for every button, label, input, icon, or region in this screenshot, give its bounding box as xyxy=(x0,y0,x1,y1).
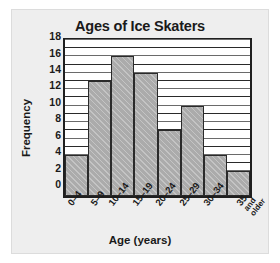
bar-slot xyxy=(88,40,111,196)
y-tick-label: 6 xyxy=(55,129,61,141)
plot-area: 024681012141618 xyxy=(63,38,252,198)
x-axis-label: Age (years) xyxy=(12,234,268,246)
y-tick-label: 4 xyxy=(55,145,61,157)
bar xyxy=(111,56,134,196)
bar xyxy=(134,73,157,196)
bar-slot xyxy=(227,40,250,196)
y-tick-label: 8 xyxy=(55,112,61,124)
bar-slot xyxy=(204,40,227,196)
bar-slot xyxy=(158,40,181,196)
bar-slot xyxy=(134,40,157,196)
y-tick-label: 18 xyxy=(49,30,61,42)
y-tick-label: 10 xyxy=(49,96,61,108)
y-axis-label: Frequency xyxy=(20,83,32,173)
y-tick-label: 16 xyxy=(49,47,61,59)
bar-slot xyxy=(111,40,134,196)
chart-card: Ages of Ice Skaters Frequency 0246810121… xyxy=(11,9,269,254)
bar-slot xyxy=(65,40,88,196)
bar xyxy=(88,81,111,196)
y-tick-label: 0 xyxy=(55,178,61,190)
y-tick-label: 14 xyxy=(49,63,61,75)
bar-series xyxy=(65,40,250,196)
y-tick-label: 12 xyxy=(49,79,61,91)
bar-slot xyxy=(181,40,204,196)
y-tick-label: 2 xyxy=(55,162,61,174)
